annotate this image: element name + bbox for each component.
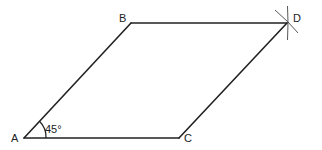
vertex-label-b: B (119, 12, 126, 24)
edge-cd (179, 23, 287, 138)
parallelogram-diagram: A B C D 45° (0, 0, 322, 150)
edge-ab (24, 23, 131, 138)
vertex-label-a: A (11, 132, 19, 144)
vertex-label-d: D (293, 12, 301, 24)
angle-label: 45° (45, 123, 62, 135)
vertex-label-c: C (184, 132, 192, 144)
